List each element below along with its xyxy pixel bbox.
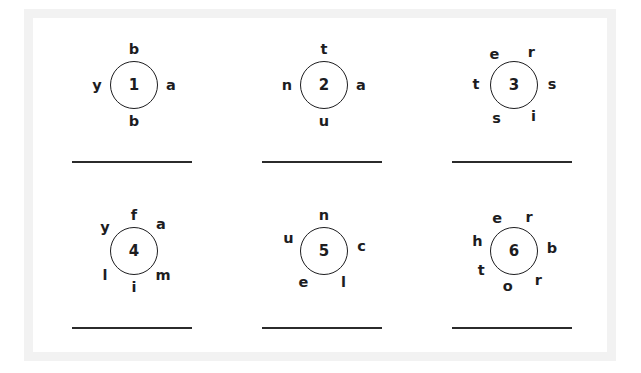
answer-line-4[interactable] (72, 327, 192, 329)
ring-letter: l (94, 265, 116, 285)
ring-letter: a (160, 75, 182, 95)
answer-line-3[interactable] (452, 161, 572, 163)
ring-letter: n (276, 75, 298, 95)
ring-letter: s (486, 108, 508, 128)
ring-letter: e (486, 208, 508, 228)
puzzle-stage-5: 5 ncleu (229, 188, 419, 314)
ring-letter: s (541, 74, 563, 94)
ring-letter: t (313, 39, 335, 59)
puzzle-cell-6: 6 erbroth (419, 188, 609, 354)
ring-letter: f (123, 205, 145, 225)
puzzle-number-1: 1 (110, 61, 158, 109)
puzzle-number-2: 2 (300, 61, 348, 109)
ring-letter: h (466, 231, 488, 251)
ring-letter: r (518, 207, 540, 227)
ring-letter: t (470, 260, 492, 280)
ring-letter: u (277, 228, 299, 248)
ring-letter: r (520, 42, 542, 62)
puzzle-number-6: 6 (490, 227, 538, 275)
puzzle-cell-5: 5 ncleu (229, 188, 419, 354)
puzzle-number-4: 4 (110, 227, 158, 275)
worksheet-frame: 1 baby 2 taun 3 ersist (24, 9, 616, 361)
ring-letter: o (497, 276, 519, 296)
answer-line-2[interactable] (262, 161, 382, 163)
answer-line-6[interactable] (452, 327, 572, 329)
answer-line-1[interactable] (72, 161, 192, 163)
ring-letter: t (465, 74, 487, 94)
ring-letter: y (94, 217, 116, 237)
puzzle-stage-4: 4 family (39, 188, 229, 314)
ring-letter: b (123, 39, 145, 59)
puzzle-stage-2: 2 taun (229, 22, 419, 148)
puzzle-cell-3: 3 ersist (419, 22, 609, 188)
ring-letter: n (313, 205, 335, 225)
puzzle-number-5: 5 (300, 227, 348, 275)
ring-letter: c (351, 236, 373, 256)
ring-letter: m (152, 265, 174, 285)
ring-letter: e (483, 44, 505, 64)
puzzle-stage-3: 3 ersist (419, 22, 609, 148)
ring-letter: a (350, 75, 372, 95)
ring-letter: a (150, 214, 172, 234)
ring-letter: r (527, 270, 549, 290)
puzzle-stage-6: 6 erbroth (419, 188, 609, 314)
puzzle-stage-1: 1 baby (39, 22, 229, 148)
puzzle-number-3: 3 (490, 61, 538, 109)
ring-letter: i (523, 106, 545, 126)
puzzle-cell-2: 2 taun (229, 22, 419, 188)
ring-letter: y (86, 75, 108, 95)
ring-letter: b (123, 111, 145, 131)
ring-letter: u (313, 111, 335, 131)
puzzle-cell-1: 1 baby (39, 22, 229, 188)
puzzle-cell-4: 4 family (39, 188, 229, 354)
ring-letter: l (333, 272, 355, 292)
ring-letter: i (123, 277, 145, 297)
ring-letter: b (541, 238, 563, 258)
answer-line-5[interactable] (262, 327, 382, 329)
ring-letter: e (292, 272, 314, 292)
puzzle-grid: 1 baby 2 taun 3 ersist (33, 18, 607, 352)
